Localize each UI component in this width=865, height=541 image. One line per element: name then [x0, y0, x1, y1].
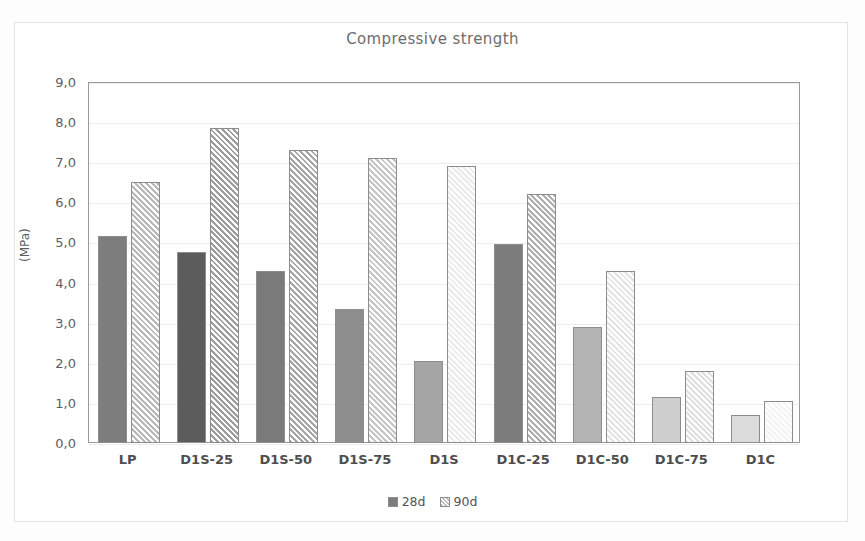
- legend-swatch-28d-icon: [388, 497, 398, 507]
- bars-layer: [88, 82, 800, 443]
- bar-group: [167, 82, 246, 443]
- x-axis-tick: LP: [88, 452, 167, 467]
- chart-legend: 28d90d: [0, 494, 865, 509]
- bar-group: [484, 82, 563, 443]
- x-axis-tick-labels: LPD1S-25D1S-50D1S-75D1SD1C-25D1C-50D1C-7…: [88, 452, 800, 474]
- x-axis-tick: D1C-50: [563, 452, 642, 467]
- y-axis-tick: 7,0: [55, 155, 76, 170]
- bar-group: [88, 82, 167, 443]
- x-axis-tick: D1S-75: [325, 452, 404, 467]
- bar-group: [325, 82, 404, 443]
- bar-90d: [606, 271, 635, 443]
- chart-title: Compressive strength: [0, 30, 865, 48]
- bar-28d: [256, 271, 285, 443]
- bar-28d: [652, 397, 681, 443]
- legend-swatch-90d-icon: [440, 497, 450, 507]
- bar-28d: [731, 415, 760, 443]
- bar-group: [563, 82, 642, 443]
- y-axis-tick: 4,0: [55, 275, 76, 290]
- bar-28d: [573, 327, 602, 443]
- compressive-strength-chart: Compressive strength (MPa) 0,01,02,03,04…: [0, 0, 865, 541]
- bar-90d: [685, 371, 714, 443]
- bar-28d: [335, 309, 364, 443]
- bar-90d: [527, 194, 556, 443]
- bar-28d: [98, 236, 127, 443]
- bar-90d: [210, 128, 239, 443]
- legend-item: 28d: [388, 494, 426, 509]
- y-axis-tick: 6,0: [55, 195, 76, 210]
- legend-label: 90d: [454, 494, 478, 509]
- bar-28d: [177, 252, 206, 443]
- y-axis-tick: 2,0: [55, 355, 76, 370]
- legend-label: 28d: [402, 494, 426, 509]
- bar-group: [721, 82, 800, 443]
- bar-group: [642, 82, 721, 443]
- legend-item: 90d: [440, 494, 478, 509]
- y-axis-tick: 0,0: [55, 436, 76, 451]
- gridline: [89, 444, 799, 445]
- y-axis-tick: 1,0: [55, 395, 76, 410]
- bar-90d: [131, 182, 160, 443]
- bar-90d: [447, 166, 476, 443]
- x-axis-tick: D1C: [721, 452, 800, 467]
- y-axis-tick: 5,0: [55, 235, 76, 250]
- bar-28d: [494, 244, 523, 443]
- x-axis-tick: D1S: [404, 452, 483, 467]
- bar-90d: [289, 150, 318, 443]
- bar-group: [246, 82, 325, 443]
- bar-90d: [368, 158, 397, 443]
- y-axis-tick-labels: 0,01,02,03,04,05,06,07,08,09,0: [30, 82, 82, 443]
- x-axis-tick: D1S-25: [167, 452, 246, 467]
- x-axis-tick: D1C-75: [642, 452, 721, 467]
- y-axis-tick: 8,0: [55, 115, 76, 130]
- x-axis-tick: D1S-50: [246, 452, 325, 467]
- bar-group: [404, 82, 483, 443]
- x-axis-tick: D1C-25: [484, 452, 563, 467]
- y-axis-tick: 9,0: [55, 75, 76, 90]
- y-axis-tick: 3,0: [55, 315, 76, 330]
- bar-28d: [414, 361, 443, 443]
- bar-90d: [764, 401, 793, 443]
